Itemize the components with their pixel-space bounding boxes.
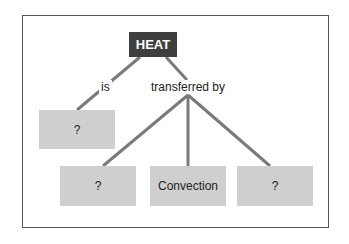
node-convection: Convection xyxy=(150,166,226,206)
edge-label-is: is xyxy=(99,80,112,94)
node-unknown-3: ? xyxy=(237,166,313,206)
node-unknown-1: ? xyxy=(39,110,115,149)
node-unknown-2: ? xyxy=(60,166,136,206)
edge-label-transferred-by: transferred by xyxy=(149,80,227,94)
root-node-heat: HEAT xyxy=(129,32,177,57)
